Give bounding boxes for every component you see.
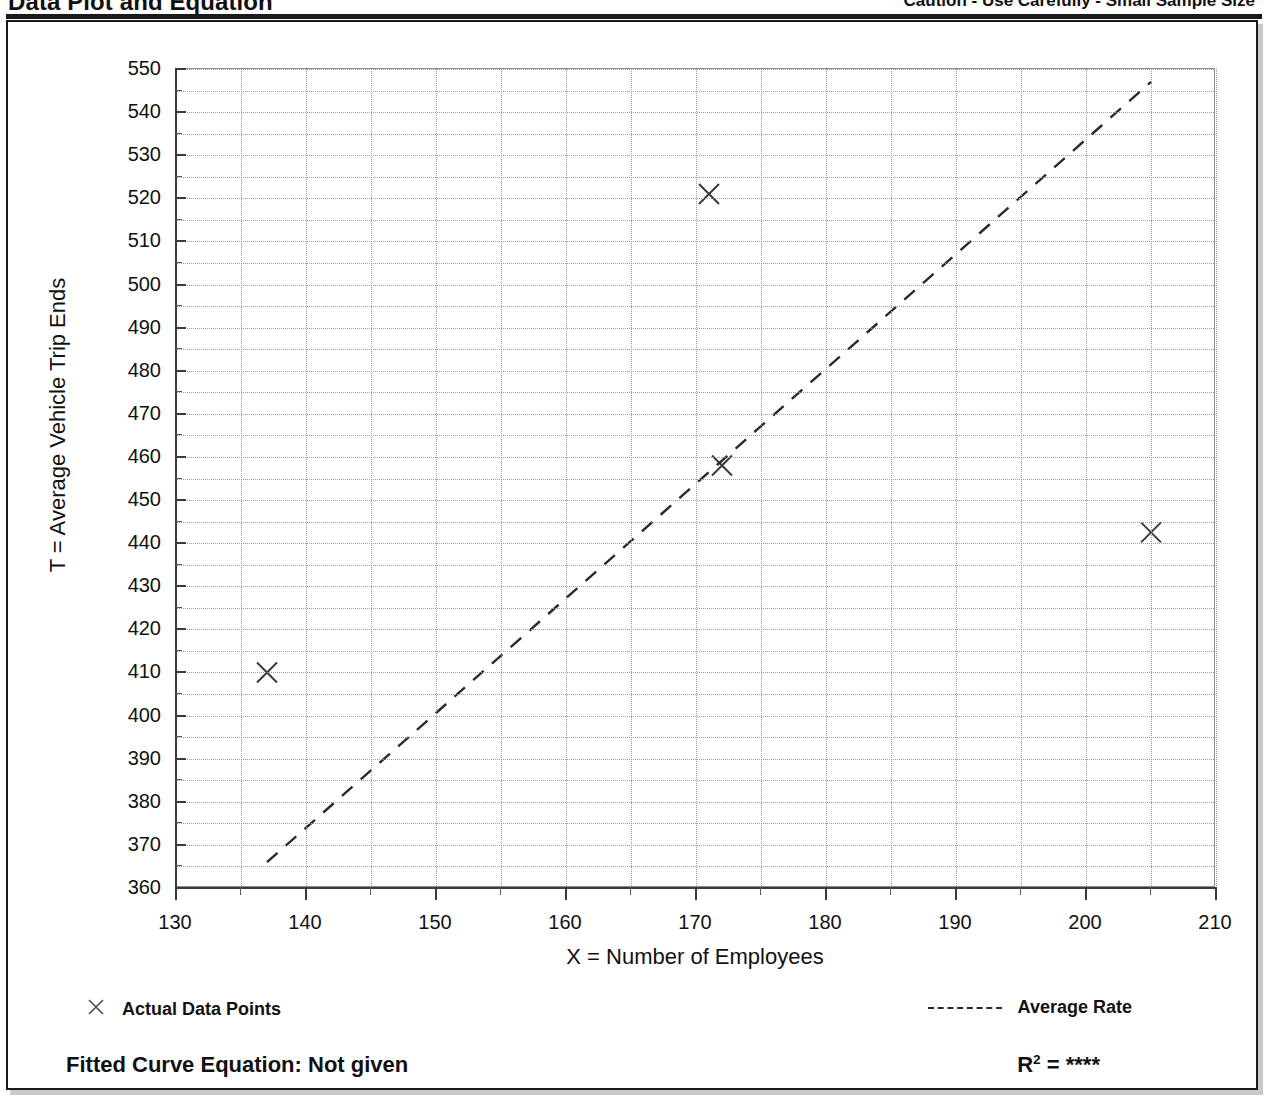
y-axis-minor-tick <box>175 736 182 737</box>
y-axis-minor-tick <box>175 779 182 780</box>
y-axis-tick <box>175 284 186 286</box>
x-axis-tick <box>1215 887 1217 900</box>
y-axis-tick <box>175 542 186 544</box>
gridline-horizontal <box>176 371 1214 372</box>
gridline-horizontal <box>176 285 1214 286</box>
y-axis-minor-tick <box>175 219 182 220</box>
y-axis-tick <box>175 327 186 329</box>
gridline-horizontal <box>176 220 1214 221</box>
gridline-horizontal <box>176 823 1214 824</box>
y-axis-minor-tick <box>175 865 182 866</box>
y-axis-minor-tick <box>175 434 182 435</box>
dashed-line-icon <box>928 1007 1002 1009</box>
y-axis-minor-tick <box>175 564 182 565</box>
gridline-vertical <box>501 69 502 886</box>
gridline-horizontal <box>176 198 1214 199</box>
r-squared-stars: **** <box>1066 1052 1100 1077</box>
y-axis-tick-label: 490 <box>105 315 161 338</box>
gridline-vertical <box>566 69 567 886</box>
y-axis-minor-tick <box>175 348 182 349</box>
legend-label-average-rate: Average Rate <box>1018 997 1132 1018</box>
y-axis-tick <box>175 844 186 846</box>
gridline-horizontal <box>176 392 1214 393</box>
x-axis-tick <box>435 887 437 900</box>
y-axis-tick <box>175 585 186 587</box>
y-axis-minor-tick <box>175 391 182 392</box>
gridline-horizontal <box>176 543 1214 544</box>
x-axis-tick-label: 170 <box>655 911 735 934</box>
x-axis-minor-tick <box>240 887 241 895</box>
y-axis-minor-tick <box>175 90 182 91</box>
gridline-vertical <box>891 69 892 886</box>
x-axis-minor-tick <box>890 887 891 895</box>
x-axis-tick-label: 200 <box>1045 911 1125 934</box>
y-axis-tick <box>175 801 186 803</box>
gridline-vertical <box>1216 69 1217 886</box>
gridline-horizontal <box>176 845 1214 846</box>
y-axis-minor-tick <box>175 521 182 522</box>
x-axis-minor-tick <box>1150 887 1151 895</box>
chart-legend: Actual Data Points Average Rate <box>8 997 1260 1037</box>
gridline-vertical <box>371 69 372 886</box>
x-axis-tick-label: 160 <box>525 911 605 934</box>
y-axis-minor-tick <box>175 650 182 651</box>
gridline-vertical <box>306 69 307 886</box>
x-axis-minor-tick <box>500 887 501 895</box>
y-axis-tick <box>175 111 186 113</box>
x-axis-tick <box>695 887 697 900</box>
y-axis-tick-label: 540 <box>105 100 161 123</box>
chart-panel: T = Average Vehicle Trip Ends X = Number… <box>6 20 1258 1090</box>
y-axis-tick <box>175 499 186 501</box>
y-axis-tick-label: 520 <box>105 186 161 209</box>
gridline-horizontal <box>176 608 1214 609</box>
x-axis-minor-tick <box>760 887 761 895</box>
y-axis-title: T = Average Vehicle Trip Ends <box>45 75 71 775</box>
plot-area <box>175 68 1215 887</box>
y-axis-tick <box>175 628 186 630</box>
gridline-horizontal <box>176 629 1214 630</box>
gridline-horizontal <box>176 565 1214 566</box>
gridline-horizontal <box>176 500 1214 501</box>
y-axis-tick <box>175 671 186 673</box>
y-axis-tick-label: 530 <box>105 143 161 166</box>
y-axis-minor-tick <box>175 693 182 694</box>
y-axis-tick-label: 380 <box>105 789 161 812</box>
data-point-marker <box>712 456 732 476</box>
gridline-vertical <box>241 69 242 886</box>
gridline-horizontal <box>176 716 1214 717</box>
y-axis-tick <box>175 154 186 156</box>
gridline-horizontal <box>176 241 1214 242</box>
y-axis-minor-tick <box>175 133 182 134</box>
legend-item-average-rate: Average Rate <box>928 997 1132 1018</box>
y-axis-tick <box>175 456 186 458</box>
y-axis-minor-tick <box>175 305 182 306</box>
r-squared-prefix: R <box>1017 1052 1033 1077</box>
x-axis-tick <box>305 887 307 900</box>
gridline-vertical <box>1021 69 1022 886</box>
gridline-horizontal <box>176 414 1214 415</box>
gridline-horizontal <box>176 479 1214 480</box>
y-axis-tick-label: 400 <box>105 703 161 726</box>
gridline-horizontal <box>176 328 1214 329</box>
gridline-horizontal <box>176 457 1214 458</box>
gridline-vertical <box>631 69 632 886</box>
gridline-horizontal <box>176 780 1214 781</box>
gridline-vertical <box>1151 69 1152 886</box>
y-axis-minor-tick <box>175 262 182 263</box>
y-axis-tick-label: 460 <box>105 444 161 467</box>
chart-canvas: T = Average Vehicle Trip Ends X = Number… <box>8 22 1260 1092</box>
gridline-horizontal <box>176 802 1214 803</box>
y-axis-tick <box>175 68 186 70</box>
y-axis-tick-label: 470 <box>105 401 161 424</box>
gridline-vertical <box>826 69 827 886</box>
equation-row: Fitted Curve Equation: Not given R2 = **… <box>8 1052 1260 1092</box>
y-axis-tick-label: 410 <box>105 660 161 683</box>
gridline-vertical <box>956 69 957 886</box>
gridline-horizontal <box>176 69 1214 70</box>
y-axis-tick <box>175 758 186 760</box>
x-axis-tick-label: 130 <box>135 911 215 934</box>
x-axis-tick-label: 180 <box>785 911 865 934</box>
header-rule <box>6 14 1262 19</box>
gridline-horizontal <box>176 134 1214 135</box>
y-axis-tick <box>175 370 186 372</box>
